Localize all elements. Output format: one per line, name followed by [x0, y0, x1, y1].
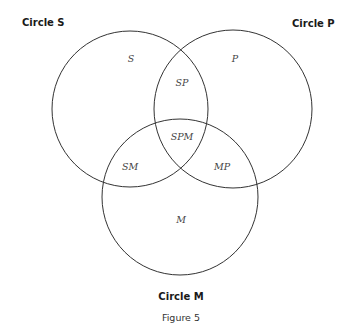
region-label-mp: MP [213, 161, 231, 172]
region-label-spm: SPM [171, 131, 194, 142]
region-label-m: M [175, 214, 186, 225]
circle-s-title: Circle S [22, 17, 65, 28]
circle-p-title: Circle P [292, 18, 335, 29]
venn-diagram: Circle S Circle P Circle M S P SP SPM SM… [0, 0, 352, 336]
region-label-sp: SP [176, 77, 190, 88]
region-label-sm: SM [122, 161, 139, 172]
figure-caption: Figure 5 [162, 312, 200, 323]
region-label-s: S [128, 53, 135, 64]
region-label-p: P [231, 53, 239, 64]
circle-m [102, 119, 258, 275]
circle-m-title: Circle M [158, 291, 203, 302]
